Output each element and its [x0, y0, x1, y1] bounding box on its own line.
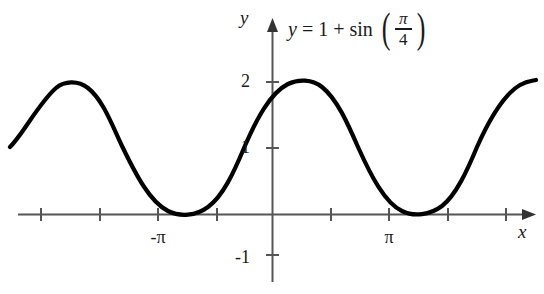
equation-annotation: y = 1 + sin ( π 4 ) [288, 10, 429, 48]
x-axis-label: x [518, 222, 526, 241]
equation-sine-function: sin [349, 19, 372, 39]
equation-constant: 1 [318, 19, 328, 39]
equation-plus-sign: + [333, 19, 344, 39]
y-tick-label-neg-1: -1 [212, 248, 250, 266]
equation-lhs: y [288, 19, 297, 39]
equation-open-paren: ( [381, 11, 390, 46]
x-tick-label-pi: π [366, 228, 412, 246]
y-axis [266, 18, 279, 282]
y-axis-label: y [240, 8, 248, 27]
equation-close-paren: ) [416, 11, 425, 46]
x-axis [18, 208, 536, 221]
y-tick-label-2: 2 [218, 72, 250, 90]
equation-fraction: π 4 [395, 10, 412, 48]
equation-equals-sign: = [302, 19, 313, 39]
y-tick-label-1: 1 [218, 138, 250, 156]
fraction-denominator: 4 [396, 30, 411, 48]
fraction-numerator: π [396, 10, 411, 28]
plot-canvas [0, 0, 544, 294]
function-graph-figure: y x -π π 2 1 -1 y = 1 + sin ( π 4 ) [0, 0, 544, 294]
x-tick-label-neg-pi: -π [132, 228, 184, 246]
